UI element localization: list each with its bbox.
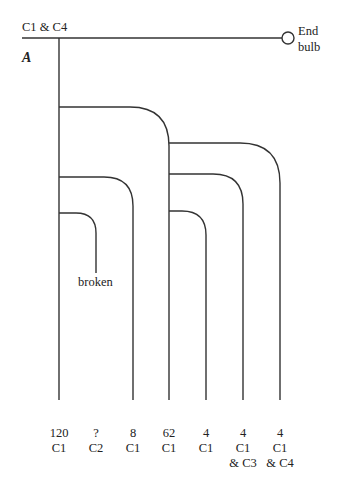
broken-label: broken	[78, 275, 113, 290]
branch-label-1: 120C1	[44, 426, 74, 456]
end-bulb-icon	[282, 32, 294, 44]
branch-broken-arc	[59, 213, 96, 273]
node-label-a: A	[22, 50, 31, 65]
top-label: C1 & C4	[22, 20, 67, 35]
end-label-1: End	[298, 24, 318, 39]
branch-label-2: ?C2	[81, 426, 111, 456]
branch-label-6: 4C1& C3	[226, 426, 260, 471]
branch-label-7: 4C1& C4	[263, 426, 297, 471]
branch-label-3: 8C1	[118, 426, 148, 456]
branch-label-5: 4C1	[191, 426, 221, 456]
branch-label-4: 62C1	[154, 426, 184, 456]
branch-62-arc	[59, 107, 169, 400]
branch-c1-arc	[169, 211, 206, 400]
branching-diagram	[0, 0, 338, 484]
branch-c4-arc	[169, 143, 280, 400]
end-label-2: bulb	[298, 40, 320, 55]
